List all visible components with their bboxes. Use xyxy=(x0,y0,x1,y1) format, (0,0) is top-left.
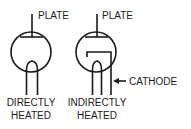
caption-right-line1: INDIRECTLY xyxy=(66,97,128,108)
plate-label-right: PLATE xyxy=(102,10,133,21)
caption-left-line1: DIRECTLY xyxy=(4,97,58,108)
cathode-element xyxy=(87,52,111,95)
envelope-circle xyxy=(11,32,51,72)
cathode-arrow-icon xyxy=(113,78,119,84)
cathode-label: CATHODE xyxy=(129,76,177,87)
indirectly-heated-tube-symbol xyxy=(76,14,116,95)
caption-right-line2: HEATED xyxy=(66,110,128,121)
directly-heated-tube-symbol xyxy=(11,14,51,95)
caption-left-line2: HEATED xyxy=(4,110,58,121)
plate-label-left: PLATE xyxy=(38,10,69,21)
filament xyxy=(27,61,38,95)
heater-filament xyxy=(93,61,102,95)
